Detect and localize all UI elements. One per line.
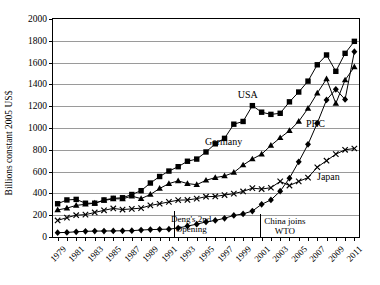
series-label-prc: PRC <box>306 118 325 129</box>
plot-area: 0200400600800100012001400160018002000 19… <box>52 18 360 238</box>
x-axis-tick <box>262 237 263 241</box>
x-axis-tick-label: 2011 <box>345 244 365 264</box>
series-japan <box>55 146 357 223</box>
event-label-line2: Opening <box>171 224 211 234</box>
y-axis-tick-label: 1200 <box>28 101 47 111</box>
x-axis-tick-label: 2003 <box>270 244 290 264</box>
x-axis-tick <box>289 237 290 241</box>
y-axis-title: Billions constant 2005 US$ <box>4 33 14 253</box>
x-axis-tick-label: 1993 <box>178 244 198 264</box>
y-axis-tick-label: 2000 <box>28 14 47 24</box>
x-axis-tick <box>354 237 355 241</box>
x-axis-tick <box>280 237 281 241</box>
x-axis-tick <box>225 237 226 241</box>
x-axis-tick-label: 1999 <box>233 244 253 264</box>
event-label-dengs-2nd-opening: Deng's 2ndOpening <box>171 214 211 234</box>
x-axis-tick-label: 1991 <box>159 244 179 264</box>
y-axis-tick <box>49 237 53 238</box>
y-axis-tick-label: 200 <box>33 210 47 220</box>
x-axis-tick-label: 1983 <box>85 244 105 264</box>
event-label-line1: China joins <box>264 216 305 226</box>
x-axis-tick <box>178 237 179 241</box>
x-axis-tick <box>187 237 188 241</box>
series-label-germany: Germany <box>205 136 242 147</box>
x-axis-tick-label: 1987 <box>122 244 142 264</box>
x-axis-tick-label: 2001 <box>252 244 272 264</box>
x-axis-tick <box>104 237 105 241</box>
x-axis-tick-label: 1997 <box>215 244 235 264</box>
x-axis-tick <box>95 237 96 241</box>
event-label-line2: WTO <box>264 226 305 236</box>
x-axis-tick-label: 1981 <box>66 244 86 264</box>
y-axis-tick-label: 1600 <box>28 58 47 68</box>
x-axis-tick-label: 1989 <box>141 244 161 264</box>
series-label-japan: Japan <box>317 170 340 181</box>
x-axis-tick <box>113 237 114 241</box>
y-axis-tick-label: 600 <box>33 167 47 177</box>
x-axis-tick <box>123 237 124 241</box>
x-axis-tick-label: 2005 <box>289 244 309 264</box>
x-axis-tick-label: 1985 <box>104 244 124 264</box>
x-axis-tick-label: 2007 <box>308 244 328 264</box>
chart-container: Billions constant 2005 US$ 0200400600800… <box>0 0 380 285</box>
event-line-china-joins-wto <box>260 214 262 237</box>
x-axis-tick <box>317 237 318 241</box>
x-axis-tick <box>299 237 300 241</box>
x-axis-tick <box>336 237 337 241</box>
x-axis-tick <box>308 237 309 241</box>
x-axis-tick <box>160 237 161 241</box>
y-axis-tick-label: 1400 <box>28 79 47 89</box>
x-axis-tick-label: 1995 <box>196 244 216 264</box>
x-axis-tick <box>252 237 253 241</box>
y-axis-tick-label: 0 <box>42 232 47 242</box>
x-axis-tick <box>327 237 328 241</box>
x-axis-tick <box>141 237 142 241</box>
x-axis-tick <box>169 237 170 241</box>
x-axis-tick <box>206 237 207 241</box>
x-axis-tick <box>197 237 198 241</box>
x-axis-tick-label: 2009 <box>326 244 346 264</box>
event-label-line1: Deng's 2nd <box>171 214 211 224</box>
x-axis-tick <box>150 237 151 241</box>
y-axis-tick-label: 400 <box>33 188 47 198</box>
event-label-china-joins-wto: China joinsWTO <box>264 216 305 236</box>
x-axis-tick <box>215 237 216 241</box>
x-axis-tick <box>271 237 272 241</box>
x-axis-tick <box>85 237 86 241</box>
x-axis-tick <box>67 237 68 241</box>
y-axis-tick-label: 1000 <box>28 123 47 133</box>
x-axis-tick <box>58 237 59 241</box>
y-axis-tick-label: 1800 <box>28 36 47 46</box>
x-axis-tick <box>345 237 346 241</box>
x-axis-tick <box>243 237 244 241</box>
x-axis-tick <box>76 237 77 241</box>
y-axis-tick-label: 800 <box>33 145 47 155</box>
series-label-usa: USA <box>238 89 258 100</box>
x-axis-tick <box>132 237 133 241</box>
x-axis-tick <box>234 237 235 241</box>
x-axis-tick-label: 1979 <box>48 244 68 264</box>
